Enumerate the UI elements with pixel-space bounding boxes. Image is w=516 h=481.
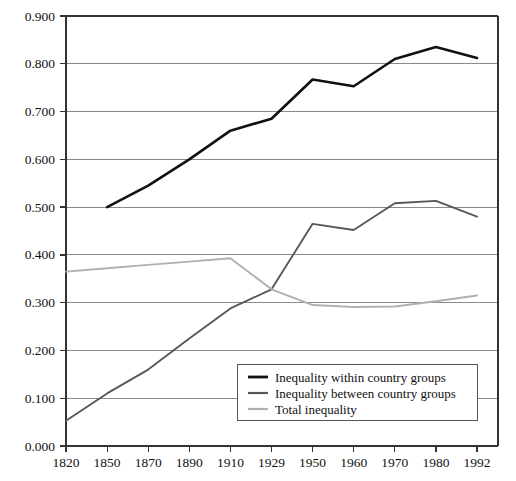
- y-tick-label: 0.300: [25, 295, 56, 310]
- x-tick-label: 1980: [422, 455, 449, 470]
- x-tick-label: 1992: [464, 455, 491, 470]
- chart-container: 0.9000.8000.7000.6000.5000.4000.3000.200…: [0, 0, 516, 481]
- legend-label: Inequality between country groups: [275, 386, 456, 401]
- y-tick-label: 0.000: [25, 439, 56, 454]
- y-tick-label: 0.600: [25, 152, 56, 167]
- x-tick-label: 1870: [135, 455, 162, 470]
- x-tick-label: 1910: [217, 455, 244, 470]
- y-tick-label: 0.900: [25, 9, 56, 24]
- y-tick-label: 0.400: [25, 247, 56, 262]
- x-tick-label: 1890: [176, 455, 203, 470]
- x-tick-label: 1950: [299, 455, 326, 470]
- y-tick-label: 0.700: [25, 104, 56, 119]
- inequality-line-chart: 0.9000.8000.7000.6000.5000.4000.3000.200…: [0, 0, 516, 481]
- x-tick-label: 1960: [340, 455, 367, 470]
- y-tick-label: 0.100: [25, 391, 56, 406]
- y-tick-label: 0.200: [25, 343, 56, 358]
- x-tick-label: 1970: [381, 455, 408, 470]
- y-tick-label: 0.800: [25, 56, 56, 71]
- x-tick-labels-group: 1820185018701890191019291950196019701980…: [53, 455, 491, 470]
- legend-label: Inequality within country groups: [275, 370, 446, 385]
- x-tick-label: 1929: [258, 455, 285, 470]
- legend-label: Total inequality: [275, 402, 357, 417]
- x-tick-label: 1850: [94, 455, 121, 470]
- y-tick-label: 0.500: [25, 200, 56, 215]
- x-tick-label: 1820: [53, 455, 80, 470]
- chart-legend: Inequality within country groupsInequali…: [237, 364, 477, 420]
